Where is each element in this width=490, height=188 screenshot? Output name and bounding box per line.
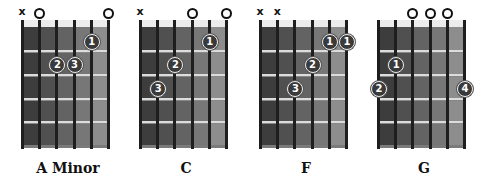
fretboard: 123 bbox=[140, 20, 226, 147]
fret-line bbox=[22, 74, 108, 76]
fretboard: 1123 bbox=[260, 20, 346, 147]
finger-dot: 2 bbox=[305, 57, 321, 73]
fretboard: 124 bbox=[378, 20, 464, 147]
fret-line bbox=[22, 121, 108, 123]
muted-string-icon: x bbox=[271, 6, 283, 18]
muted-string-icon: x bbox=[254, 6, 266, 18]
open-string-icon bbox=[34, 8, 45, 19]
finger-dot: 1 bbox=[202, 34, 218, 50]
guitar-string bbox=[55, 20, 58, 149]
nut bbox=[22, 20, 108, 27]
fret-line bbox=[140, 50, 226, 52]
string-marks: xx bbox=[256, 6, 356, 20]
nut bbox=[260, 20, 346, 27]
muted-string-icon: x bbox=[134, 6, 146, 18]
string-marks: x bbox=[18, 6, 118, 20]
finger-dot: 1 bbox=[339, 34, 355, 50]
open-string-icon bbox=[442, 8, 453, 19]
guitar-string bbox=[259, 20, 262, 149]
fret-line bbox=[140, 98, 226, 100]
guitar-string bbox=[276, 20, 279, 149]
fret-line bbox=[260, 74, 346, 76]
finger-dot: 1 bbox=[84, 34, 100, 50]
fret-line bbox=[378, 145, 464, 148]
fret-line bbox=[378, 98, 464, 100]
guitar-string bbox=[394, 20, 397, 149]
fret-line bbox=[378, 50, 464, 52]
fret-line bbox=[260, 145, 346, 148]
string-marks bbox=[374, 6, 474, 20]
guitar-string bbox=[446, 20, 449, 149]
guitar-string bbox=[429, 20, 432, 149]
fret-line bbox=[140, 74, 226, 76]
guitar-string bbox=[38, 20, 41, 149]
open-string-icon bbox=[103, 8, 114, 19]
finger-dot: 3 bbox=[67, 57, 83, 73]
finger-dot: 2 bbox=[371, 81, 387, 97]
chord-diagram-g: 124 G bbox=[374, 0, 474, 188]
guitar-string bbox=[73, 20, 76, 149]
fret-line bbox=[260, 50, 346, 52]
guitar-string bbox=[191, 20, 194, 149]
open-string-icon bbox=[407, 8, 418, 19]
open-string-icon bbox=[187, 8, 198, 19]
chord-diagram-a-minor: x 123 A Minor bbox=[18, 0, 118, 188]
nut bbox=[378, 20, 464, 27]
chord-diagram-c: x 123 C bbox=[136, 0, 236, 188]
guitar-string bbox=[139, 20, 142, 149]
guitar-string bbox=[411, 20, 414, 149]
fret-line bbox=[378, 74, 464, 76]
fret-line bbox=[22, 50, 108, 52]
muted-string-icon: x bbox=[16, 6, 28, 18]
string-marks: x bbox=[136, 6, 236, 20]
open-string-icon bbox=[425, 8, 436, 19]
fret-line bbox=[260, 121, 346, 123]
chord-label: C bbox=[136, 160, 236, 176]
nut bbox=[140, 20, 226, 27]
finger-dot: 1 bbox=[322, 34, 338, 50]
finger-dot: 4 bbox=[457, 81, 473, 97]
fret-line bbox=[140, 121, 226, 123]
guitar-string bbox=[173, 20, 176, 149]
fret-line bbox=[22, 98, 108, 100]
chord-label: G bbox=[374, 160, 474, 176]
fret-line bbox=[22, 145, 108, 148]
fret-line bbox=[140, 145, 226, 148]
fret-shading bbox=[378, 20, 464, 147]
chord-diagram-f: xx 1123 F bbox=[256, 0, 356, 188]
guitar-string bbox=[311, 20, 314, 149]
fretboard: 123 bbox=[22, 20, 108, 147]
fret-line bbox=[378, 121, 464, 123]
fret-line bbox=[260, 98, 346, 100]
open-string-icon bbox=[221, 8, 232, 19]
guitar-string bbox=[225, 20, 228, 149]
chord-label: A Minor bbox=[18, 160, 118, 176]
guitar-string bbox=[107, 20, 110, 149]
chord-label: F bbox=[256, 160, 356, 176]
guitar-string bbox=[21, 20, 24, 149]
